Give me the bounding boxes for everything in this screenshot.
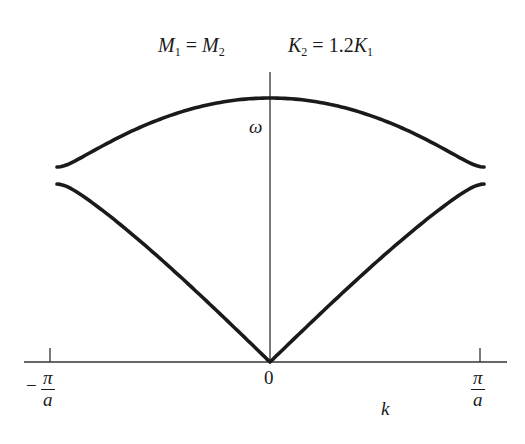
- left-tick-minus: −: [26, 375, 37, 397]
- right-tick-label: πa: [471, 369, 485, 409]
- k-axis-label: k: [381, 398, 389, 420]
- dispersion-diagram: M1 = M2 K2 = 1.2K1 ω k 0 − πa πa: [0, 0, 525, 444]
- title-mass-relation: M1 = M2: [158, 34, 225, 60]
- left-tick-label: πa: [41, 369, 55, 409]
- title-spring-relation: K2 = 1.2K1: [288, 34, 373, 60]
- plot-area: [0, 0, 525, 444]
- omega-axis-label: ω: [249, 116, 262, 138]
- origin-label: 0: [264, 367, 274, 389]
